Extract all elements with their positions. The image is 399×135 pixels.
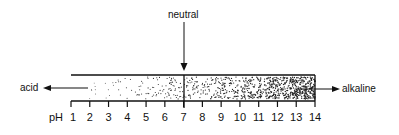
tick-label: 3 bbox=[105, 111, 111, 123]
axis-ticks bbox=[71, 101, 315, 107]
neutral-label: neutral bbox=[168, 9, 199, 20]
stipple-gradient bbox=[89, 76, 315, 99]
tick-label: 7 bbox=[181, 111, 187, 123]
tick-label: 11 bbox=[253, 111, 264, 123]
tick-label: 6 bbox=[162, 111, 168, 123]
alkaline-label: alkaline bbox=[342, 83, 376, 94]
acid-label: acid bbox=[20, 82, 38, 93]
axis-label-ph: pH bbox=[49, 111, 63, 123]
acid-arrow-icon bbox=[43, 85, 51, 91]
tick-label: 5 bbox=[143, 111, 149, 123]
tick-label: 4 bbox=[124, 111, 130, 123]
tick-label: 2 bbox=[87, 111, 93, 123]
tick-label: 12 bbox=[271, 111, 283, 123]
tick-label: 1 bbox=[70, 111, 76, 123]
alkaline-arrow-icon bbox=[332, 86, 340, 92]
tick-label: 8 bbox=[199, 111, 205, 123]
tick-label: 9 bbox=[218, 111, 224, 123]
tick-label: 13 bbox=[290, 111, 302, 123]
neutral-arrow-icon bbox=[181, 63, 188, 71]
ph-scale-diagram: neutral acid alkaline pH 123456789101112… bbox=[0, 0, 399, 135]
tick-label: 10 bbox=[234, 111, 246, 123]
tick-label: 14 bbox=[309, 111, 321, 123]
